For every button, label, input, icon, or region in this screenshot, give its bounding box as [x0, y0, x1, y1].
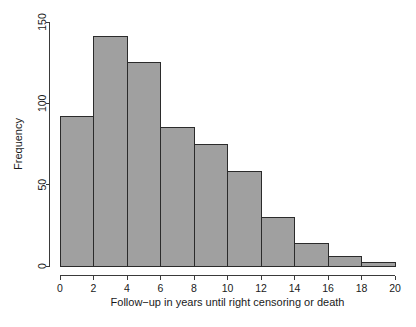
y-axis-tick-label: 50	[36, 179, 48, 191]
histogram-bar	[194, 144, 228, 266]
x-axis-tick-label: 20	[389, 282, 401, 294]
histogram-bar	[127, 63, 161, 266]
histogram-bar	[228, 172, 262, 266]
histogram-bar	[362, 263, 396, 266]
histogram-bar	[94, 37, 128, 266]
x-axis-title: Follow−up in years until right censoring…	[111, 296, 345, 308]
plot-area: 05010015002468101214161820Follow−up in y…	[0, 0, 416, 327]
x-axis: 02468101214161820	[57, 276, 401, 295]
y-axis-tick-label: 150	[36, 13, 48, 31]
x-axis-tick-label: 0	[57, 282, 63, 294]
x-axis-tick-label: 16	[322, 282, 334, 294]
histogram-bar	[161, 128, 195, 266]
y-axis-tick-label: 100	[36, 94, 48, 112]
histogram-bar	[328, 256, 362, 266]
histogram-bar	[261, 217, 295, 266]
histogram-bar	[60, 116, 94, 266]
x-axis-tick-label: 18	[356, 282, 368, 294]
y-axis-tick-label: 0	[36, 263, 48, 269]
x-axis-tick-label: 6	[158, 282, 164, 294]
histogram-bar	[295, 243, 329, 266]
x-axis-tick-label: 12	[255, 282, 267, 294]
histogram-figure: 05010015002468101214161820Follow−up in y…	[0, 0, 416, 327]
bars-group	[60, 37, 395, 266]
x-axis-tick-label: 4	[124, 282, 130, 294]
y-axis: 050100150	[36, 13, 50, 269]
x-axis-tick-label: 10	[222, 282, 234, 294]
x-axis-tick-label: 14	[289, 282, 301, 294]
x-axis-tick-label: 8	[191, 282, 197, 294]
x-axis-tick-label: 2	[91, 282, 97, 294]
y-axis-title: Frequency	[12, 118, 24, 170]
